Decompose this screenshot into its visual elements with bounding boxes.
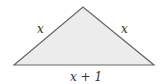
triangle-diagram: x x x + 1 [0, 0, 161, 84]
right-side-label: x [121, 22, 128, 36]
triangle [14, 7, 154, 65]
left-side-label: x [37, 22, 44, 36]
base-label: x + 1 [70, 70, 102, 84]
